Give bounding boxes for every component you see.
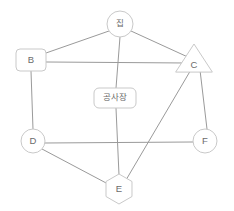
node-shape-c[interactable] [176, 44, 213, 72]
edge-d-e [42, 149, 108, 184]
node-house[interactable]: 집 [107, 11, 133, 37]
node-c[interactable]: C [176, 44, 213, 72]
edge-house-b [46, 31, 109, 53]
graph-svg: 집BC공사장DEF [0, 0, 234, 211]
edge-c-e [126, 68, 192, 180]
node-b[interactable]: B [16, 49, 46, 71]
edge-house-c [131, 31, 190, 58]
node-shape-house[interactable] [107, 11, 133, 37]
edge-d-f [45, 142, 193, 143]
edge-b-d [31, 71, 33, 129]
node-shape-construction[interactable] [94, 88, 136, 108]
edge-construction-e [116, 108, 119, 175]
node-construction[interactable]: 공사장 [94, 88, 136, 108]
diagram-canvas: 집BC공사장DEF [0, 0, 234, 211]
node-shape-d[interactable] [21, 129, 45, 153]
node-shape-e[interactable] [106, 174, 132, 204]
node-f[interactable]: F [193, 129, 217, 153]
edge-b-c [46, 62, 187, 63]
node-shape-b[interactable] [16, 49, 46, 71]
nodes-layer: 집BC공사장DEF [16, 11, 217, 204]
node-d[interactable]: D [21, 129, 45, 153]
node-e[interactable]: E [106, 174, 132, 204]
edge-c-f [200, 70, 207, 129]
node-shape-f[interactable] [193, 129, 217, 153]
